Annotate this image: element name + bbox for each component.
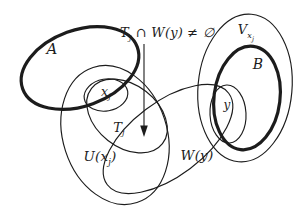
label-v-subsub: j xyxy=(252,35,254,43)
venn-diagram: Tj ∩ W(y) ≠ ∅ A Vxj B y xj Tj U(xj) W(y) xyxy=(0,0,304,216)
label-u-post: ) xyxy=(111,148,116,164)
set-b-ellipse xyxy=(208,42,286,153)
label-set-w-y: W(y) xyxy=(181,149,214,163)
label-v-sub: xj xyxy=(247,31,254,40)
label-xj-sub: j xyxy=(108,92,111,101)
label-set-v-xj: Vxj xyxy=(238,23,255,38)
label-set-tj: Tj xyxy=(113,121,125,134)
label-point-xj: xj xyxy=(101,86,111,99)
label-u-pre: U( xyxy=(83,148,100,164)
annotation-rest: ∩ W(y) ≠ ∅ xyxy=(132,25,214,40)
label-set-b: B xyxy=(253,57,264,71)
label-v-base: V xyxy=(238,22,248,37)
label-set-a: A xyxy=(46,42,57,57)
label-point-y: y xyxy=(224,99,231,111)
annotation-base: T xyxy=(120,25,129,40)
label-u-base: x xyxy=(100,148,108,164)
label-tj-base: T xyxy=(113,120,122,135)
label-set-u-xj: U(xj) xyxy=(83,150,116,164)
label-tj-sub: j xyxy=(122,128,125,137)
annotation-arrow-head-icon xyxy=(140,126,148,138)
annotation-tj-intersect-wy-nonempty: Tj ∩ W(y) ≠ ∅ xyxy=(120,26,214,39)
